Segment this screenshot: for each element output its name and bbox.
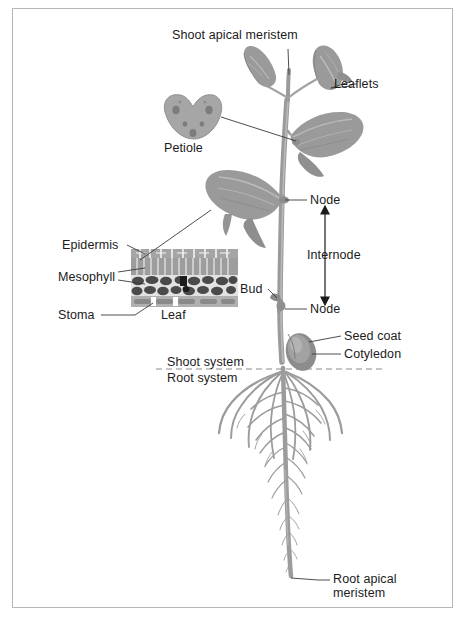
label-epidermis: Epidermis <box>62 238 118 252</box>
label-node-upper: Node <box>310 193 340 207</box>
label-bud: Bud <box>240 282 263 296</box>
leaflet-top-left <box>244 46 276 87</box>
seed-coat-cotyledon <box>282 330 320 374</box>
leaf-cross-section-inset <box>131 249 238 307</box>
label-shoot-apical-meristem: Shoot apical meristem <box>172 28 298 42</box>
label-root-apical-meristem: Root apical meristem <box>333 572 419 600</box>
label-petiole: Petiole <box>164 141 203 155</box>
label-node-lower: Node <box>310 302 340 316</box>
label-root-system: Root system <box>167 371 238 385</box>
leader-root-apical-meristem <box>291 578 330 580</box>
label-mesophyll: Mesophyll <box>58 270 115 284</box>
label-cotyledon: Cotyledon <box>344 347 401 361</box>
main-stem <box>280 70 289 362</box>
label-shoot-system: Shoot system <box>167 355 244 369</box>
axillary-bud <box>270 294 286 314</box>
leaf-middle-left <box>205 170 285 248</box>
label-leaf: Leaf <box>161 308 186 322</box>
label-stoma: Stoma <box>58 308 95 322</box>
petiole-cross-section-inset <box>164 95 221 139</box>
root-system <box>219 368 342 576</box>
leader-seed-coat <box>309 336 341 342</box>
leaf-upper-right <box>288 112 364 177</box>
label-seed-coat: Seed coat <box>344 329 401 343</box>
figure-canvas: Shoot apical meristem Leaflets Petiole N… <box>0 0 467 628</box>
label-leaflets: Leaflets <box>334 77 379 91</box>
label-internode: Internode <box>307 248 361 262</box>
